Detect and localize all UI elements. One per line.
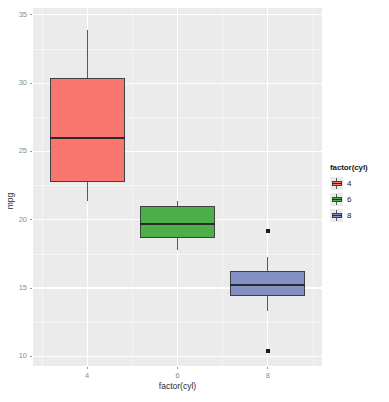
y-tick-mark [30,151,33,152]
x-tick-label: 4 [67,372,107,380]
gridline-minor-vertical [42,8,43,366]
legend-item-label: 8 [347,212,351,220]
median-line [140,223,215,225]
legend-item-6[interactable]: 6 [330,192,388,207]
median-line [50,137,125,139]
outlier-point[interactable] [266,349,270,353]
plot-panel [33,8,322,366]
y-tick-label: 15 [19,284,27,292]
gridline-minor-vertical [132,8,133,366]
whisker-upper [267,257,268,271]
box-iqr[interactable] [50,78,125,182]
x-tick-mark [87,367,88,370]
gridline-major-vertical [267,8,268,366]
x-tick-mark [267,367,268,370]
y-tick-label: 35 [19,11,27,19]
x-tick-label: 6 [158,372,198,380]
legend-item-4[interactable]: 4 [330,176,388,191]
outlier-point[interactable] [266,229,270,233]
x-tick-label: 8 [248,372,288,380]
legend-item-label: 6 [347,196,351,204]
y-axis-title: mpg [5,193,15,210]
gridline-minor-vertical [222,8,223,366]
legend-title: factor(cyl) [330,163,388,172]
x-tick-mark [177,367,178,370]
legend-key-boxplot-icon [330,177,343,190]
y-tick-label: 10 [19,352,27,360]
whisker-lower [177,238,178,250]
y-tick-mark [30,83,33,84]
y-tick-label: 30 [19,79,27,87]
y-tick-mark [30,288,33,289]
legend: factor(cyl) 468 [330,163,388,224]
legend-key-boxplot-icon [330,209,343,222]
whisker-upper [87,30,88,78]
y-tick-mark [30,356,33,357]
whisker-lower [87,182,88,201]
legend-items: 468 [330,176,388,223]
boxplot-figure: mpg 353025201510 468 factor(cyl) factor(… [0,0,389,402]
legend-key-boxplot-icon [330,193,343,206]
gridline-major-vertical [177,8,178,366]
y-tick-label: 25 [19,147,27,155]
y-tick-mark [30,14,33,15]
x-axis-title: factor(cyl) [33,381,322,391]
y-tick-mark [30,219,33,220]
legend-item-label: 4 [347,180,351,188]
median-line [230,284,305,286]
legend-item-8[interactable]: 8 [330,208,388,223]
y-tick-label: 20 [19,216,27,224]
gridline-minor-vertical [313,8,314,366]
whisker-lower [267,296,268,311]
